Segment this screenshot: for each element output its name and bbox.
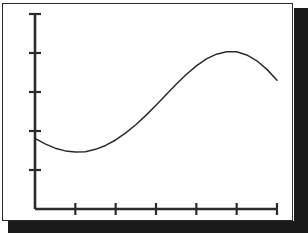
line-chart bbox=[0, 0, 308, 233]
data-series-curve bbox=[35, 52, 277, 152]
series-line bbox=[35, 52, 277, 152]
screenshot-root bbox=[0, 0, 308, 233]
